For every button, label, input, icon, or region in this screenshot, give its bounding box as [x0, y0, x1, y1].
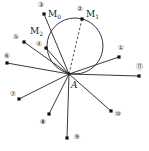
- point-number-4: ④: [36, 40, 42, 48]
- point-number-11: ⑪: [136, 63, 143, 71]
- endpoints: [5, 12, 140, 139]
- dashed-line-a-m1: [69, 19, 82, 74]
- point-a: [68, 73, 71, 76]
- endpoint-4: [44, 46, 47, 49]
- ray-1: [69, 57, 119, 74]
- endpoint-1: [117, 55, 120, 58]
- endpoint-9: [65, 136, 68, 139]
- label-a: A: [70, 80, 78, 90]
- endpoint-5: [22, 40, 25, 43]
- label-m0: M0: [48, 9, 61, 20]
- endpoint-11: [137, 74, 140, 77]
- point-number-8: ⑧: [40, 118, 46, 126]
- point-number-3: ③: [38, 1, 44, 9]
- endpoint-10: [109, 109, 112, 112]
- point-number-1: ①: [118, 44, 124, 52]
- endpoint-8: [47, 112, 50, 115]
- point-number-6: ⑥: [4, 52, 10, 60]
- label-m2: M2: [30, 26, 43, 37]
- label-m1: M1: [86, 9, 99, 20]
- endpoint-2: [80, 17, 83, 20]
- ray-9: [67, 74, 69, 138]
- point-number-5: ⑤: [13, 33, 19, 41]
- point-labels: ①②M1③M0④M2⑤⑥⑦⑧⑨⑩⑪: [4, 1, 143, 141]
- endpoint-3: [42, 12, 45, 15]
- endpoint-7: [17, 97, 20, 100]
- point-number-2: ②: [77, 5, 83, 13]
- rays: [7, 14, 139, 138]
- ray-7: [19, 74, 69, 99]
- ray-diagram: ①②M1③M0④M2⑤⑥⑦⑧⑨⑩⑪ A: [0, 0, 149, 151]
- point-number-7: ⑦: [10, 90, 16, 98]
- endpoint-6: [5, 61, 8, 64]
- point-number-10: ⑩: [115, 110, 121, 118]
- ray-8: [49, 74, 69, 114]
- ray-6: [7, 63, 69, 74]
- point-number-9: ⑨: [74, 133, 80, 141]
- ray-11: [69, 74, 139, 76]
